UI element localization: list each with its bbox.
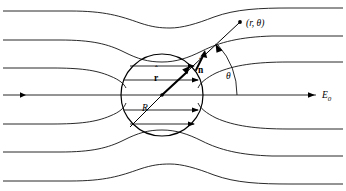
r-hat-vector [162,72,187,95]
theta-arc [218,45,237,95]
n-hat-label: n [198,65,204,75]
field-line-top-1 [3,8,343,28]
point-label: (r, θ) [246,18,264,29]
field-line-bottom-3 [3,103,343,129]
sphere-center-dot [160,93,164,97]
inner-arrow-4 [188,121,195,126]
diagram-canvas: (r, θ) ˆ r ˆ n R θ E0 [0,0,346,191]
field-line-bottom-1 [3,164,343,184]
axis-arrow-left [20,92,26,98]
theta-arc-arrowhead [216,44,223,53]
field-label-sub: 0 [328,95,332,103]
theta-label: θ [226,71,231,81]
field-label: E0 [321,90,332,103]
inner-arrow-2 [192,77,199,82]
point-marker-dot [238,20,242,24]
radius-label: R [141,103,148,113]
r-hat-label: r [154,73,159,83]
field-line-top-2 [3,36,343,62]
inner-arrow-3 [192,107,199,112]
field-diagram-figure: (r, θ) ˆ r ˆ n R θ E0 [0,0,346,191]
axis-arrow-right [308,92,315,98]
